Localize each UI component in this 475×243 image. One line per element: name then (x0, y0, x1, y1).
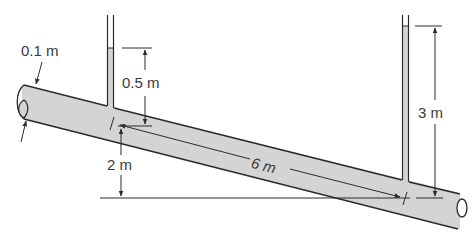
right-piezometer-tube (403, 15, 409, 182)
pipe-diagram: 0.1 m 0.5 m 2 m 6 m 3 m (0, 0, 475, 243)
left-head-label: 0.5 m (122, 74, 160, 91)
pipe-diameter-label: 0.1 m (21, 42, 59, 59)
left-piezometer-tube (108, 15, 114, 108)
right-head-dimension: 3 m (415, 26, 443, 196)
elevation-label: 2 m (107, 156, 132, 173)
right-head-label: 3 m (418, 104, 443, 121)
pipe-length-dimension: 6 m (120, 125, 400, 197)
